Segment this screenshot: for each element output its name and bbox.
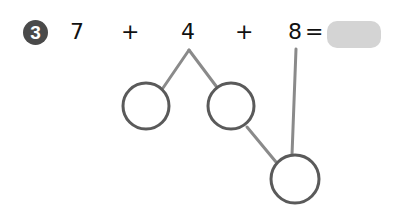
total-sum-circle[interactable] [271, 155, 319, 203]
bond-line-right [189, 50, 216, 86]
bond-line-vertical [292, 49, 296, 155]
bond-line-left [163, 50, 189, 88]
left-partial-sum-circle[interactable] [123, 83, 169, 129]
right-partial-sum-circle[interactable] [208, 83, 254, 129]
number-bond-diagram [0, 0, 397, 221]
bond-line-diagonal [247, 127, 276, 162]
